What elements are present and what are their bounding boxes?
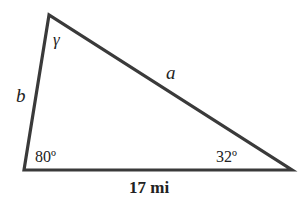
angle-80-label: 80º (35, 148, 56, 165)
side-a-label: a (166, 62, 176, 83)
angle-gamma-label: γ (53, 30, 61, 49)
base-length-label: 17 mi (129, 178, 169, 197)
angle-32-label: 32º (216, 148, 237, 165)
triangle (24, 15, 292, 170)
triangle-diagram: γ b a 80º 32º 17 mi (0, 0, 307, 204)
side-b-label: b (16, 85, 26, 106)
